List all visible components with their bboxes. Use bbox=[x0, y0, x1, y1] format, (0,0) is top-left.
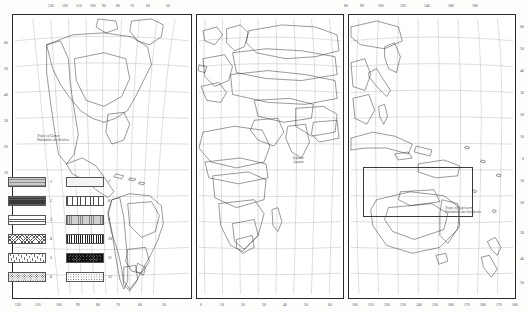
legend-swatch-10 bbox=[66, 234, 104, 244]
equator-label: Equator Äquator bbox=[293, 157, 304, 165]
legend-swatch-9 bbox=[66, 215, 104, 225]
legend-column-right: 7 8 9 10 11 12 bbox=[66, 172, 124, 286]
eurasia-africa-panel: Equator Äquator bbox=[196, 14, 344, 299]
legend-entry[interactable]: 6 bbox=[8, 267, 66, 286]
pacific-panel: Tropic of Capricorn Wendekreis des Stein… bbox=[348, 14, 516, 299]
legend-entry[interactable]: 8 bbox=[66, 191, 124, 210]
legend-swatch-5 bbox=[8, 253, 46, 263]
tropic-of-cancer-line2: Wendekreis des Krebses bbox=[37, 139, 69, 143]
legend-entry[interactable]: 3 bbox=[8, 210, 66, 229]
legend-number-3: 3 bbox=[50, 217, 52, 222]
legend-number-9: 9 bbox=[108, 217, 110, 222]
legend-entry[interactable]: 7 bbox=[66, 172, 124, 191]
legend-entry[interactable]: 10 bbox=[66, 229, 124, 248]
legend-number-5: 5 bbox=[50, 255, 52, 260]
legend-swatch-2 bbox=[8, 196, 46, 206]
legend-swatch-8 bbox=[66, 196, 104, 206]
world-map-figure: Tropic of Cancer Wendekreis des Krebses … bbox=[0, 0, 528, 314]
legend-swatch-11 bbox=[66, 253, 104, 263]
legend-entry[interactable]: 9 bbox=[66, 210, 124, 229]
legend-swatch-1 bbox=[8, 177, 46, 187]
legend-number-4: 4 bbox=[50, 236, 52, 241]
tropic-of-cancer-label: Tropic of Cancer Wendekreis des Krebses bbox=[37, 135, 69, 143]
legend-swatch-4 bbox=[8, 234, 46, 244]
legend-entry[interactable]: 12 bbox=[66, 267, 124, 286]
legend-number-12: 12 bbox=[108, 274, 112, 279]
map-legend: 1 2 3 4 5 6 bbox=[8, 172, 130, 294]
legend-number-7: 7 bbox=[108, 179, 110, 184]
legend-number-2: 2 bbox=[50, 198, 52, 203]
legend-swatch-7 bbox=[66, 177, 104, 187]
legend-number-11: 11 bbox=[108, 255, 112, 260]
legend-swatch-12 bbox=[66, 272, 104, 282]
legend-number-10: 10 bbox=[108, 236, 112, 241]
legend-number-1: 1 bbox=[50, 179, 52, 184]
legend-swatch-3 bbox=[8, 215, 46, 225]
legend-entry[interactable]: 11 bbox=[66, 248, 124, 267]
eurasia-africa-map-svg bbox=[197, 15, 343, 298]
legend-entry[interactable]: 4 bbox=[8, 229, 66, 248]
tropic-of-capricorn-line2: Wendekreis des Steinbocks bbox=[445, 211, 481, 215]
legend-number-8: 8 bbox=[108, 198, 110, 203]
tropic-of-capricorn-label: Tropic of Capricorn Wendekreis des Stein… bbox=[445, 207, 481, 215]
legend-entry[interactable]: 1 bbox=[8, 172, 66, 191]
legend-swatch-6 bbox=[8, 272, 46, 282]
equator-line2: Äquator bbox=[293, 161, 304, 165]
legend-column-left: 1 2 3 4 5 6 bbox=[8, 172, 66, 286]
legend-entry[interactable]: 5 bbox=[8, 248, 66, 267]
legend-entry[interactable]: 2 bbox=[8, 191, 66, 210]
legend-number-6: 6 bbox=[50, 274, 52, 279]
pacific-map-svg bbox=[349, 15, 515, 298]
